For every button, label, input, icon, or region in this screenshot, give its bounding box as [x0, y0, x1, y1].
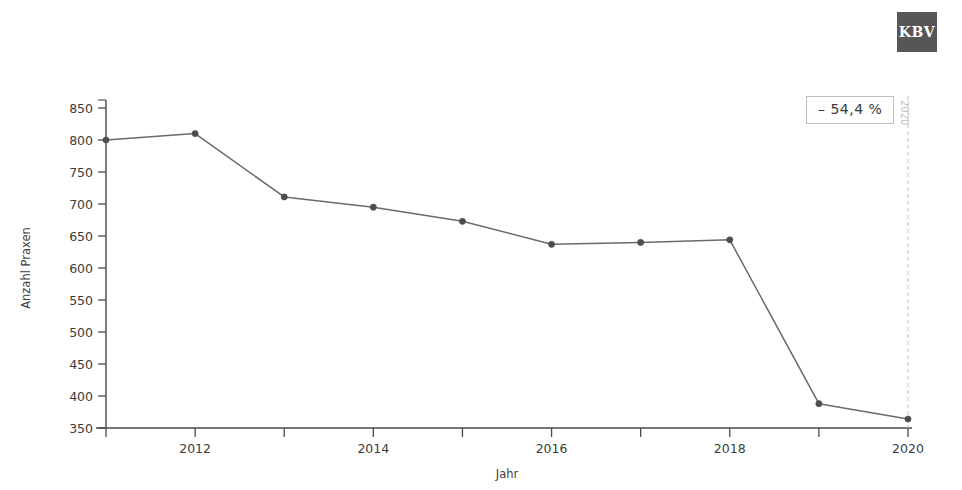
data-point: [459, 218, 465, 224]
y-tick-label: 750: [69, 165, 93, 180]
x-tick-label: 2012: [179, 441, 211, 456]
data-point: [370, 204, 376, 210]
data-point: [281, 194, 287, 200]
y-tick-label: 500: [69, 325, 93, 340]
data-point: [192, 131, 198, 137]
y-axis-ticks: 350400450500550600650700750800850: [69, 100, 106, 436]
data-point: [727, 237, 733, 243]
y-axis-title: Anzahl Praxen: [19, 227, 33, 309]
y-tick-label: 350: [69, 421, 93, 436]
series-points-anzahl-praxen: [103, 131, 911, 423]
x-axis-ticks: 20122014201620182020: [106, 428, 924, 456]
y-tick-label: 400: [69, 389, 93, 404]
line-chart-plot: 350400450500550600650700750800850 201220…: [0, 0, 962, 490]
series-line-anzahl-praxen: [106, 134, 908, 419]
y-tick-label: 550: [69, 293, 93, 308]
data-point: [905, 416, 911, 422]
x-tick-label: 2014: [357, 441, 389, 456]
x-tick-label: 2016: [536, 441, 568, 456]
chart-root: KBV – 54,4 % 350400450500550600650700750…: [0, 0, 962, 490]
data-point: [816, 401, 822, 407]
y-tick-label: 700: [69, 197, 93, 212]
x-tick-label: 2018: [714, 441, 746, 456]
x-tick-label: 2020: [892, 441, 924, 456]
y-tick-label: 600: [69, 261, 93, 276]
year-marker-rotated-label: 2020: [899, 100, 910, 125]
data-point: [548, 241, 554, 247]
data-point: [638, 239, 644, 245]
y-tick-label: 800: [69, 133, 93, 148]
x-axis-title: Jahr: [495, 467, 519, 481]
data-point: [103, 137, 109, 143]
y-tick-label: 650: [69, 229, 93, 244]
y-tick-label: 450: [69, 357, 93, 372]
y-tick-label: 850: [69, 101, 93, 116]
